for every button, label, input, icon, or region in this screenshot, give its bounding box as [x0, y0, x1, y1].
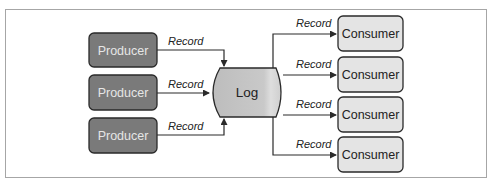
edge-log-to-consumer-4: Record: [273, 117, 336, 155]
consumer-label: Consumer: [342, 68, 400, 82]
consumer-node-4: Consumer: [338, 137, 403, 172]
edge-log-to-consumer-2: Record: [283, 58, 336, 75]
producer-node-3: Producer: [89, 118, 157, 153]
diagram-canvas: Record Record Record Record Record Recor…: [0, 0, 492, 184]
consumer-node-3: Consumer: [338, 97, 403, 132]
producer-node-2: Producer: [89, 75, 157, 110]
producer-label: Producer: [98, 86, 149, 100]
consumer-label: Consumer: [342, 148, 400, 162]
log-label: Log: [236, 85, 259, 100]
consumer-node-1: Consumer: [338, 16, 403, 51]
edge-producer-2-to-log: Record: [157, 78, 209, 93]
consumer-node-2: Consumer: [338, 57, 403, 92]
edge-producer-3-to-log: Record: [157, 119, 224, 135]
edge-label: Record: [296, 17, 332, 29]
edge-label: Record: [296, 58, 332, 70]
producer-node-1: Producer: [89, 33, 157, 67]
producer-label: Producer: [98, 129, 149, 143]
edge-label: Record: [168, 120, 204, 132]
edge-producer-1-to-log: Record: [157, 35, 224, 66]
edge-label: Record: [168, 35, 204, 47]
consumer-label: Consumer: [342, 108, 400, 122]
edge-label: Record: [168, 78, 204, 90]
edge-label: Record: [296, 138, 332, 150]
edge-log-to-consumer-3: Record: [283, 98, 336, 115]
log-node: Log: [213, 68, 281, 117]
consumer-label: Consumer: [342, 27, 400, 41]
edge-label: Record: [296, 98, 332, 110]
producer-label: Producer: [98, 44, 149, 58]
